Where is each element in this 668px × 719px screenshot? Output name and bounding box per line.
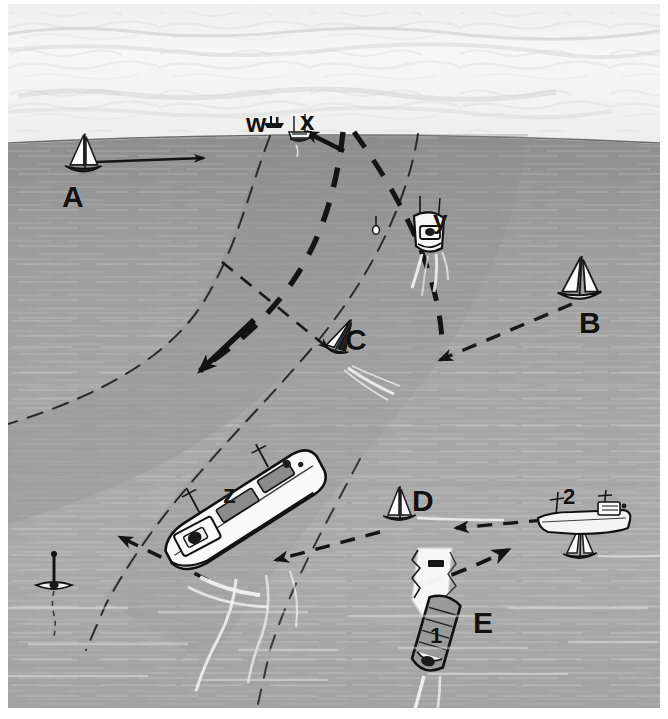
vessel-label-y: y [433,207,447,233]
vessel-label-2: 2 [563,486,575,508]
sky [8,4,660,144]
vessel-label-b: B [579,308,601,338]
illustration-plate: A B C D E w x y z 1 2 [8,4,660,708]
vessel-label-x: x [300,108,314,134]
vessel-label-w: w [246,110,266,136]
area-label-e: E [473,608,493,638]
vessel-label-a: A [62,182,84,212]
seascape-artwork [8,4,660,708]
vessel-label-1: 1 [430,625,442,647]
vessel-label-d: D [412,486,434,516]
vessel-label-z: z [223,481,236,507]
vessel-label-c: C [345,325,367,355]
illustration-scene: A B C D E w x y z 1 2 [0,0,668,719]
